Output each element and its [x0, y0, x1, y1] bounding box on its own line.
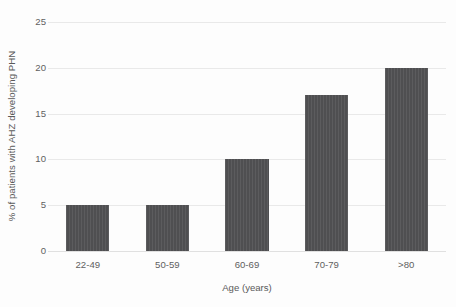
- y-axis-tick-label: 25: [20, 17, 46, 27]
- x-axis-tick-label: 70-79: [287, 258, 367, 272]
- y-axis-tick-labels: 0510152025: [20, 0, 46, 307]
- y-axis-tick-label: 5: [20, 200, 46, 210]
- plot-area: [48, 22, 446, 251]
- y-axis-tick-label: 10: [20, 154, 46, 164]
- x-axis-tick-label: 60-69: [207, 258, 287, 272]
- x-axis-tick-label: >80: [366, 258, 446, 272]
- y-axis-tick-label: 15: [20, 109, 46, 119]
- bar: [146, 205, 189, 251]
- bar-chart: % of patients with AHZ developing PHN 05…: [0, 0, 456, 307]
- gridline: [48, 251, 446, 252]
- bars-group: [48, 22, 446, 251]
- bar: [225, 159, 268, 251]
- bar: [305, 95, 348, 251]
- y-axis-tick-label: 0: [20, 246, 46, 256]
- bar: [66, 205, 109, 251]
- bar: [385, 68, 428, 251]
- x-axis-title: Age (years): [48, 281, 446, 295]
- x-axis-tick-labels: 22-4950-5960-6970-79>80: [48, 258, 446, 274]
- x-axis-tick-label: 22-49: [48, 258, 128, 272]
- y-axis-tick-label: 20: [20, 63, 46, 73]
- y-axis-title: % of patients with AHZ developing PHN: [3, 6, 21, 266]
- x-axis-tick-label: 50-59: [128, 258, 208, 272]
